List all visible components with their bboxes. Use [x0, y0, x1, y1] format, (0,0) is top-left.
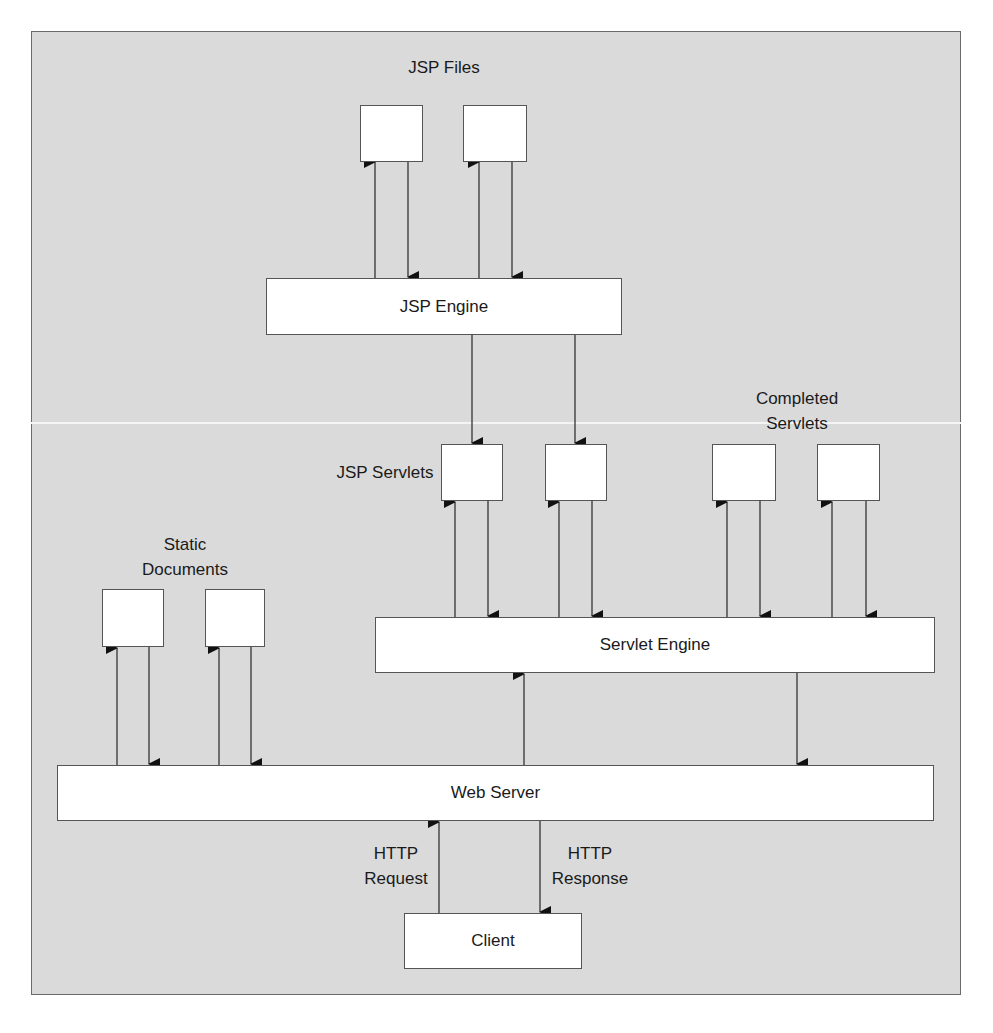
label-completed-servlets-line1: Completed: [756, 386, 838, 411]
label-http-response-line1: HTTP: [552, 841, 629, 866]
label-http-response: HTTP Response: [552, 841, 629, 891]
diagram-frame: [31, 31, 961, 995]
servlet-engine-label: Servlet Engine: [600, 635, 711, 655]
servlet-engine-box: Servlet Engine: [375, 617, 935, 673]
label-completed-servlets: Completed Servlets: [756, 386, 838, 436]
label-static-documents: Static Documents: [142, 532, 228, 582]
client-label: Client: [471, 931, 514, 951]
client-box: Client: [404, 913, 582, 969]
jsp-engine-label: JSP Engine: [400, 297, 489, 317]
label-http-request-line2: Request: [364, 866, 427, 891]
web-server-label: Web Server: [451, 783, 540, 803]
static-doc-box-1: [102, 589, 164, 647]
label-static-documents-line1: Static: [142, 532, 228, 557]
label-jsp-files: JSP Files: [408, 55, 480, 80]
completed-servlet-box-2: [817, 444, 880, 501]
label-http-request-line1: HTTP: [364, 841, 427, 866]
label-static-documents-line2: Documents: [142, 557, 228, 582]
web-server-box: Web Server: [57, 765, 934, 821]
jsp-servlet-box-2: [545, 444, 607, 501]
jsp-file-box-1: [360, 105, 423, 162]
completed-servlet-box-1: [712, 444, 776, 501]
label-jsp-servlets: JSP Servlets: [336, 460, 433, 485]
label-http-response-line2: Response: [552, 866, 629, 891]
label-completed-servlets-line2: Servlets: [756, 411, 838, 436]
jsp-engine-box: JSP Engine: [266, 278, 622, 335]
jsp-servlet-box-1: [441, 444, 503, 501]
label-http-request: HTTP Request: [364, 841, 427, 891]
jsp-file-box-2: [463, 105, 527, 162]
static-doc-box-2: [205, 589, 265, 647]
